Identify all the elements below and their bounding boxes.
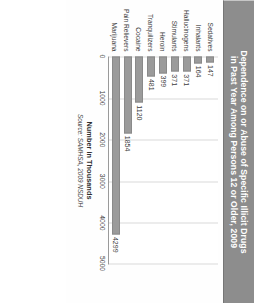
bar-series: 147 164 371 371 399 xyxy=(109,56,188,264)
plot-area: 147 164 371 371 399 xyxy=(108,56,188,264)
bar-row: 481 xyxy=(146,56,156,264)
bar xyxy=(147,56,155,76)
bar-row: 1120 xyxy=(135,56,145,264)
source-note: Source: SAMHSA, 2009 NSDUH xyxy=(76,56,84,264)
bar-value-label: 1120 xyxy=(136,105,143,120)
category-label: Pain Relievers xyxy=(122,0,132,54)
x-tick-label: 4000 xyxy=(98,215,107,230)
x-tick-label: 1000 xyxy=(98,90,107,105)
bar-row: 4299 xyxy=(111,56,121,264)
bar-value-label: 4299 xyxy=(112,236,119,252)
category-label: Tranquilizers xyxy=(146,0,156,54)
x-tick-label: 5000 xyxy=(98,255,107,270)
bar-value-label: 371 xyxy=(171,74,178,86)
chart-figure: Dependence on or Abuse of Specific Illic… xyxy=(66,0,188,303)
bar xyxy=(171,56,179,71)
bar xyxy=(159,56,167,73)
bar xyxy=(135,56,143,102)
x-axis-title: Number in Thousands xyxy=(85,56,94,264)
x-tick-label: 3000 xyxy=(98,173,107,188)
category-label: Marijuana xyxy=(110,0,120,54)
bar-value-label: 371 xyxy=(183,74,188,86)
bar-value-label: 1854 xyxy=(124,135,131,151)
category-label: Stimulants xyxy=(170,0,180,54)
category-axis-labels: Sedatives Inhalants Hallucinogens Stimul… xyxy=(108,0,188,54)
bar xyxy=(183,56,188,71)
bar xyxy=(124,56,132,133)
bar-row: 1854 xyxy=(123,56,133,264)
category-label: Hallucinogens xyxy=(182,0,188,54)
bar-row: 399 xyxy=(158,56,168,264)
x-tick-label: 2000 xyxy=(98,132,107,147)
x-tick-label: 0 xyxy=(98,54,107,58)
bar-value-label: 481 xyxy=(148,78,155,90)
value-axis-ticks: 0 1000 2000 3000 4000 5000 xyxy=(95,56,107,264)
bar-value-label: 399 xyxy=(160,75,167,87)
category-label: Cocaine xyxy=(134,0,144,54)
bar-row: 371 xyxy=(182,56,188,264)
category-label: Heroin xyxy=(158,0,168,54)
bar-row: 371 xyxy=(170,56,180,264)
bar xyxy=(112,56,120,234)
chart-rotation-wrapper: Dependence on or Abuse of Specific Illic… xyxy=(66,0,188,303)
